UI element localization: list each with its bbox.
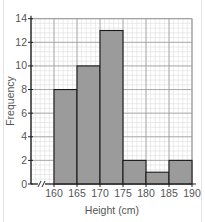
x-tick-label: 165 bbox=[68, 187, 86, 199]
histogram-bar bbox=[54, 90, 77, 184]
y-tick-label: 0 bbox=[21, 178, 27, 190]
y-tick-label: 2 bbox=[21, 154, 27, 166]
histogram-bar bbox=[77, 66, 100, 184]
histogram-chart: 02468101214 160165170175180185190 Height… bbox=[0, 0, 205, 222]
histogram-bar bbox=[169, 160, 192, 184]
histogram-bar bbox=[123, 160, 146, 184]
x-tick-labels: 160165170175180185190 bbox=[45, 187, 201, 199]
y-tick-label: 6 bbox=[21, 107, 27, 119]
histogram-bar bbox=[100, 31, 123, 184]
y-tick-label: 12 bbox=[15, 36, 27, 48]
x-tick-label: 175 bbox=[114, 187, 132, 199]
x-tick-label: 160 bbox=[45, 187, 63, 199]
x-axis-title: Height (cm) bbox=[85, 204, 139, 216]
y-tick-label: 14 bbox=[15, 12, 27, 24]
y-tick-labels: 02468101214 bbox=[15, 12, 27, 189]
x-tick-label: 185 bbox=[160, 187, 178, 199]
y-tick-label: 4 bbox=[21, 130, 27, 142]
bars bbox=[54, 31, 192, 184]
y-tick-label: 10 bbox=[15, 59, 27, 71]
y-tick-label: 8 bbox=[21, 83, 27, 95]
histogram-bar bbox=[146, 172, 169, 184]
x-tick-label: 190 bbox=[183, 187, 201, 199]
x-tick-label: 180 bbox=[137, 187, 155, 199]
y-axis-title: Frequency bbox=[4, 75, 16, 125]
x-tick-label: 170 bbox=[91, 187, 109, 199]
